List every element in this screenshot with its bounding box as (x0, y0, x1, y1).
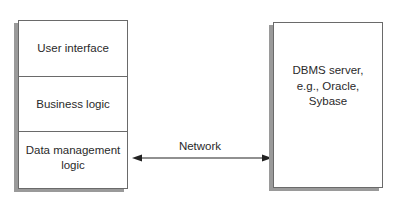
network-label: Network (150, 140, 250, 152)
server-label-line: Sybase (274, 94, 382, 110)
dbms-server-box: DBMS server, e.g., Oracle, Sybase (273, 22, 383, 188)
business-logic-layer: Business logic (19, 77, 127, 132)
dbms-server-label: DBMS server, e.g., Oracle, Sybase (274, 63, 382, 110)
server-label-line: DBMS server, (274, 63, 382, 79)
server-label-line: e.g., Oracle, (274, 79, 382, 95)
user-interface-layer: User interface (19, 21, 127, 77)
data-management-layer: Data management logic (19, 132, 127, 189)
user-interface-label: User interface (37, 41, 109, 56)
client-tier-box: User interface Business logic Data manag… (18, 20, 128, 189)
business-logic-label: Business logic (36, 97, 110, 112)
network-double-arrow-icon (132, 152, 272, 164)
data-management-label: Data management logic (25, 143, 121, 173)
